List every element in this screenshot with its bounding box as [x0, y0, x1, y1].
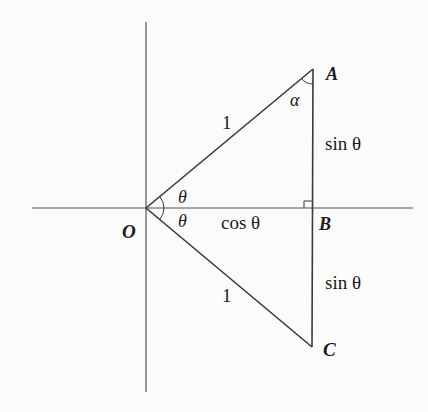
angle-label-theta-lower: θ	[178, 211, 187, 231]
segment-label-OB: cos θ	[221, 212, 260, 233]
triangle-diagram: O A B C θ θ α 1 1 cos θ sin θ sin θ	[0, 0, 428, 412]
segment-label-AB: sin θ	[325, 133, 361, 154]
segment-AC	[312, 69, 313, 347]
segment-label-BC: sin θ	[325, 272, 361, 293]
right-angle-marker	[304, 201, 313, 208]
segment-OA	[146, 69, 313, 208]
angle-label-theta-upper: θ	[178, 187, 187, 207]
angle-label-alpha: α	[290, 90, 300, 110]
point-label-O: O	[122, 221, 136, 242]
segment-label-OA: 1	[222, 112, 232, 133]
segment-label-OC: 1	[222, 285, 232, 306]
point-label-C: C	[323, 339, 336, 360]
point-label-A: A	[325, 64, 338, 84]
angle-arc-alpha	[302, 79, 314, 84]
point-label-B: B	[318, 214, 331, 234]
